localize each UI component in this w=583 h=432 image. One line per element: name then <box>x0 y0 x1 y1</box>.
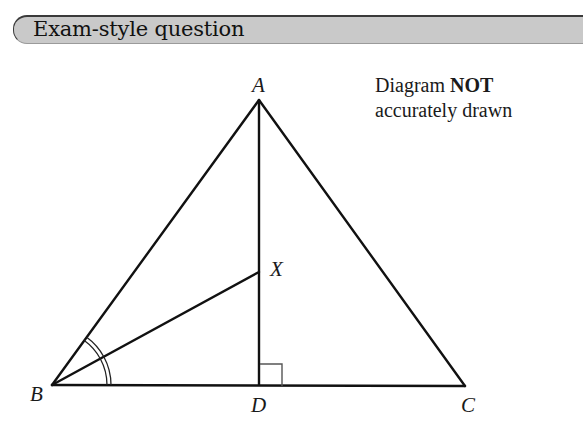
vertex-label-b: B <box>30 382 43 406</box>
note-line-1: Diagram NOT <box>375 73 512 98</box>
note-line-2: accurately drawn <box>375 98 512 123</box>
note-bold-not: NOT <box>450 74 493 96</box>
segment-ab <box>52 100 259 385</box>
diagram-note: Diagram NOT accurately drawn <box>375 73 512 123</box>
angle-mark-xbd <box>100 357 111 385</box>
note-prefix: Diagram <box>375 74 450 96</box>
vertex-label-a: A <box>250 73 265 97</box>
vertex-label-x: X <box>269 257 284 281</box>
segment-ac <box>259 100 465 386</box>
segment-bx <box>52 272 259 385</box>
right-angle-mark <box>260 364 282 386</box>
angle-mark-abx <box>84 337 104 358</box>
vertex-label-c: C <box>461 393 476 417</box>
vertex-label-d: D <box>250 393 266 417</box>
